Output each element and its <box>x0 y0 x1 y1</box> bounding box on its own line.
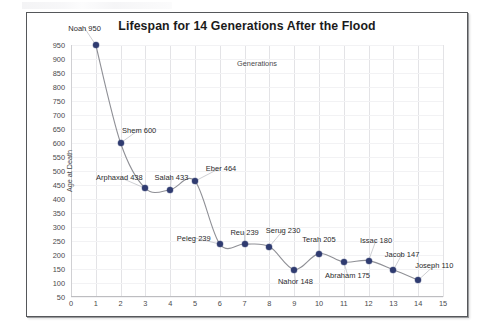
x-tick-label: 0 <box>69 299 73 308</box>
data-point-label: Nahor 148 <box>278 276 313 285</box>
y-tick-label: 500 <box>31 167 65 176</box>
x-tick-label: 15 <box>439 299 447 308</box>
data-point-label: Eber 464 <box>206 163 236 172</box>
data-point-marker <box>118 140 124 146</box>
x-tick-label: 8 <box>267 299 271 308</box>
x-tick-label: 12 <box>364 299 372 308</box>
y-tick-label: 300 <box>31 223 65 232</box>
x-tick-label: 3 <box>143 299 147 308</box>
y-tick-label: 700 <box>31 111 65 120</box>
y-tick-label: 850 <box>31 69 65 78</box>
data-point-marker <box>366 258 372 264</box>
x-tick-label: 14 <box>414 299 422 308</box>
data-point-marker <box>167 187 173 193</box>
data-point-marker <box>142 185 148 191</box>
x-axis-ticks: 0123456789101112131415 <box>71 297 443 311</box>
y-axis-ticks: 9509008508007507006506005505004504003503… <box>31 45 65 297</box>
data-point-marker <box>291 267 297 273</box>
y-tick-label: 350 <box>31 209 65 218</box>
y-tick-label: 750 <box>31 97 65 106</box>
chart-frame: Lifespan for 14 Generations After the Fl… <box>26 12 468 317</box>
x-tick-label: 10 <box>315 299 323 308</box>
data-point-label: Abraham 175 <box>325 270 370 279</box>
data-point-label: Peleg 239 <box>177 233 211 242</box>
y-tick-label: 600 <box>31 139 65 148</box>
data-point-label: Joseph 110 <box>415 261 453 270</box>
x-tick-label: 13 <box>389 299 397 308</box>
y-tick-label: 450 <box>31 181 65 190</box>
y-tick-label: 150 <box>31 265 65 274</box>
x-tick-label: 2 <box>119 299 123 308</box>
data-point-label: Issac 180 <box>360 236 392 245</box>
data-point-marker <box>217 241 223 247</box>
y-tick-label: 950 <box>31 41 65 50</box>
x-tick-label: 7 <box>243 299 247 308</box>
y-tick-label: 800 <box>31 83 65 92</box>
x-tick-label: 9 <box>292 299 296 308</box>
data-point-marker <box>192 178 198 184</box>
y-tick-label: 200 <box>31 251 65 260</box>
y-tick-label: 400 <box>31 195 65 204</box>
data-point-label: Arphaxad 438 <box>96 173 143 182</box>
data-point-marker <box>390 267 396 273</box>
x-tick-label: 1 <box>94 299 98 308</box>
data-point-marker <box>316 251 322 257</box>
x-tick-label: 5 <box>193 299 197 308</box>
vertical-gridline <box>443 45 444 297</box>
data-point-label: Serug 230 <box>266 226 301 235</box>
trend-curve <box>96 45 418 280</box>
y-tick-label: 650 <box>31 125 65 134</box>
data-point-marker <box>242 241 248 247</box>
x-tick-label: 11 <box>340 299 348 308</box>
y-axis-title: Age at Death <box>65 150 74 192</box>
y-tick-label: 50 <box>31 293 65 302</box>
data-point-label: Salah 433 <box>155 173 189 182</box>
x-tick-label: 6 <box>218 299 222 308</box>
series-curve <box>71 45 443 297</box>
x-tick-label: 4 <box>168 299 172 308</box>
data-point-marker <box>341 259 347 265</box>
data-point-marker <box>415 277 421 283</box>
data-point-label: Terah 205 <box>302 235 335 244</box>
data-point-marker <box>93 42 99 48</box>
data-point-label: Reu 239 <box>230 227 258 236</box>
data-point-label: Shem 600 <box>122 125 156 134</box>
y-tick-label: 250 <box>31 237 65 246</box>
plot-area: Noah 950Shem 600Arphaxad 438Salah 433Ebe… <box>71 45 443 297</box>
y-tick-label: 100 <box>31 279 65 288</box>
y-tick-label: 900 <box>31 55 65 64</box>
data-point-label: Jacob 147 <box>385 250 420 259</box>
x-axis-title: Generations <box>71 59 443 68</box>
data-point-label: Noah 950 <box>68 24 101 33</box>
scan-artifact-strip <box>22 2 172 9</box>
data-point-marker <box>266 244 272 250</box>
y-tick-label: 550 <box>31 153 65 162</box>
